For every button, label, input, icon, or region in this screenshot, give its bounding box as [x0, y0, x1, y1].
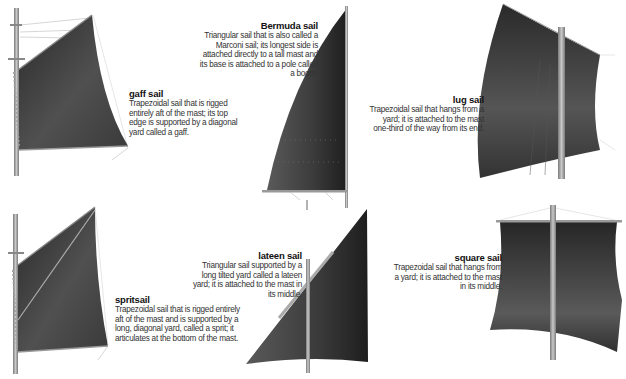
sail-title: lug sail [367, 94, 484, 105]
lug-sail-illustration [478, 4, 615, 179]
sail-description: Trapezoidal sail that is rigged entirely… [129, 99, 241, 137]
caption-lug-sail: lug sail Trapezoidal sail that hangs fro… [367, 94, 484, 134]
caption-gaff-sail: gaff sail Trapezoidal sail that is rigge… [129, 88, 241, 137]
sail-description: Trapezoidal sail that is rigged entirely… [115, 305, 243, 343]
sail-title: square sail [388, 252, 502, 263]
sail-title: Bermuda sail [198, 20, 318, 31]
caption-lateen-sail: lateen sail Triangular sail supported by… [190, 250, 302, 299]
spritsail-illustration [8, 207, 108, 374]
caption-spritsail: spritsail Trapezoidal sail that is rigge… [115, 294, 243, 343]
sail-description: Trapezoidal sail that hangs from a yard;… [388, 263, 502, 292]
sail-title: gaff sail [129, 88, 241, 99]
caption-square-sail: square sail Trapezoidal sail that hangs … [388, 252, 502, 292]
gaff-sail-illustration [8, 8, 128, 176]
sail-description: Triangular sail supported by a long tilt… [190, 261, 302, 299]
sail-title: lateen sail [190, 250, 302, 261]
square-sail-illustration [490, 205, 622, 360]
caption-bermuda-sail: Bermuda sail Triangular sail that is als… [198, 20, 318, 79]
sail-description: Trapezoidal sail that hangs from a yard;… [367, 105, 484, 134]
sail-description: Triangular sail that is also called a Ma… [198, 31, 318, 79]
